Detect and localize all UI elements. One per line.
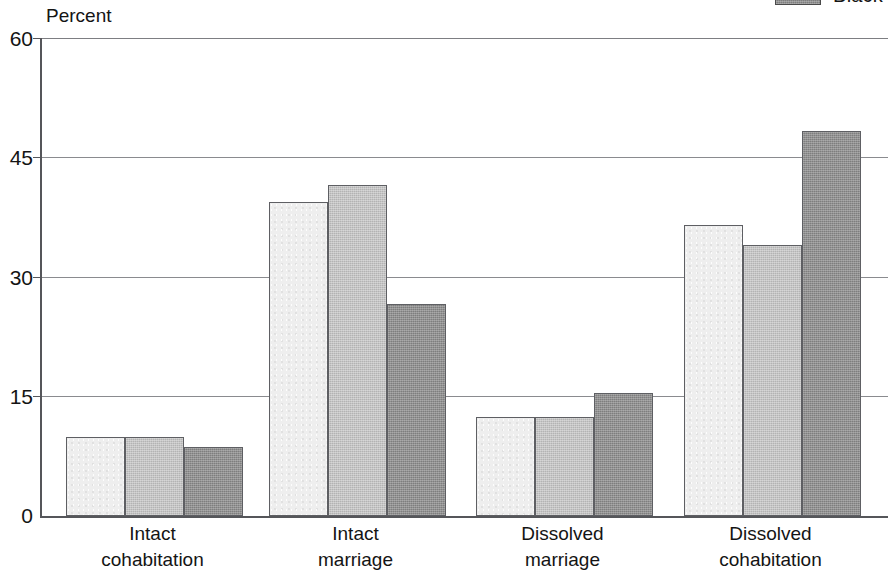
bar-dissolved-marriage-series-2 — [594, 393, 653, 516]
y-tick-mark-30 — [33, 277, 42, 278]
bar-dissolved-marriage-series-0 — [476, 417, 535, 516]
x-axis-label-3: Dissolvedcohabitation — [719, 521, 821, 573]
bar-dissolved-cohabitation-series-2 — [802, 131, 861, 516]
y-tick-label-30: 30 — [10, 266, 33, 287]
bar-dissolved-cohabitation-series-1 — [743, 245, 802, 516]
y-tick-mark-15 — [33, 396, 42, 397]
x-axis-label-line2: marriage — [521, 547, 603, 573]
x-axis-label-1: Intactmarriage — [318, 521, 393, 573]
y-tick-label-60: 60 — [10, 28, 33, 49]
plot-area — [40, 38, 888, 516]
legend-item-black: Black — [775, 0, 883, 6]
y-tick-label-0: 0 — [21, 505, 33, 526]
y-axis-tick-labels: 015304560 — [0, 38, 33, 515]
y-tick-label-15: 15 — [10, 385, 33, 406]
x-axis-label-line1: Dissolved — [521, 521, 603, 547]
x-axis-label-line1: Intact — [318, 521, 393, 547]
x-axis-label-2: Dissolvedmarriage — [521, 521, 603, 573]
chart-legend: Black — [775, 0, 883, 6]
bar-intact-cohabitation-series-0 — [66, 437, 125, 517]
bar-dissolved-marriage-series-1 — [535, 417, 594, 516]
y-axis-title: Percent — [46, 6, 111, 26]
bar-intact-marriage-series-2 — [387, 304, 446, 516]
x-axis-line — [40, 516, 888, 518]
legend-swatch-black — [775, 0, 821, 5]
bar-intact-cohabitation-series-1 — [125, 437, 184, 517]
gridline-45 — [42, 157, 888, 158]
bar-intact-marriage-series-0 — [269, 202, 328, 516]
bar-intact-cohabitation-series-2 — [184, 447, 243, 516]
x-axis-label-0: Intactcohabitation — [101, 521, 203, 573]
x-axis-category-labels: IntactcohabitationIntactmarriageDissolve… — [40, 521, 886, 581]
bar-intact-marriage-series-1 — [328, 185, 387, 517]
x-axis-label-line2: cohabitation — [101, 547, 203, 573]
x-axis-label-line2: cohabitation — [719, 547, 821, 573]
bar-chart: Black Percent 015304560 Intactcohabitati… — [0, 0, 889, 583]
x-axis-label-line1: Intact — [101, 521, 203, 547]
y-tick-label-45: 45 — [10, 147, 33, 168]
y-tick-mark-45 — [33, 157, 42, 158]
bar-dissolved-cohabitation-series-0 — [684, 225, 743, 516]
x-axis-label-line2: marriage — [318, 547, 393, 573]
y-tick-mark-60 — [33, 38, 42, 39]
x-axis-label-line1: Dissolved — [719, 521, 821, 547]
legend-label-black: Black — [833, 0, 883, 5]
